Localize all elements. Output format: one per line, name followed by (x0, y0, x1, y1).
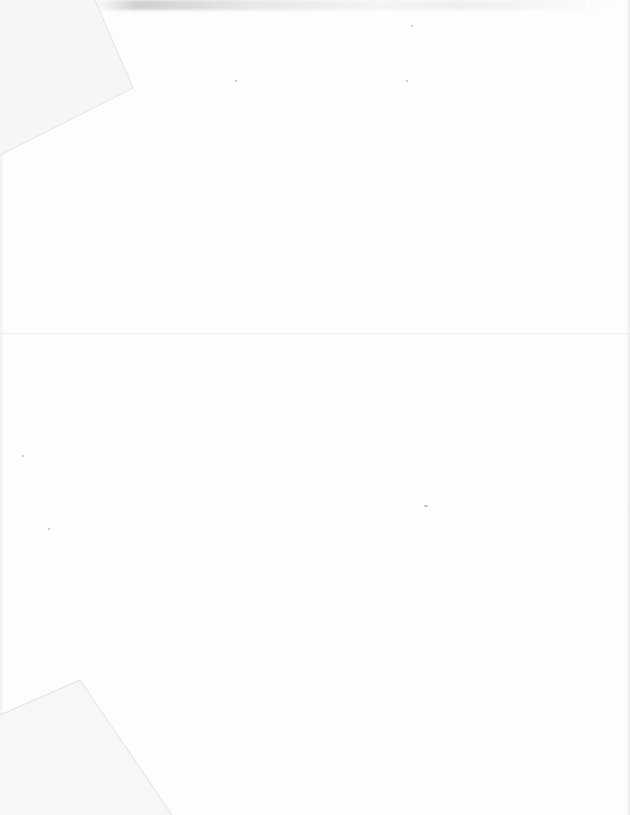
folded-corner-top-left (0, 0, 135, 155)
dust-speck (22, 455, 24, 457)
right-edge-shadow (626, 0, 630, 815)
dust-speck (48, 528, 50, 530)
dust-speck (411, 25, 413, 27)
dust-speck (424, 505, 428, 507)
blank-scanned-page (0, 0, 630, 815)
horizontal-fold-line (0, 333, 630, 334)
top-smudge (95, 0, 615, 10)
folded-corner-bottom-left (0, 665, 175, 815)
dust-speck (235, 80, 237, 82)
dust-speck (406, 80, 408, 82)
